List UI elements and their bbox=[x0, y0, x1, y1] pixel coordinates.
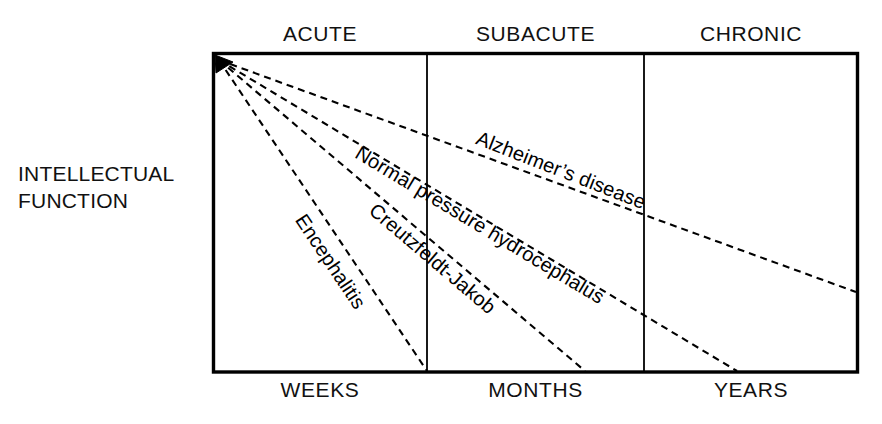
decline-trajectory-figure: INTELLECTUALFUNCTION ACUTE SUBACUTE CHRO… bbox=[0, 0, 882, 424]
curve-creutzfeldt-jakob bbox=[219, 60, 585, 371]
